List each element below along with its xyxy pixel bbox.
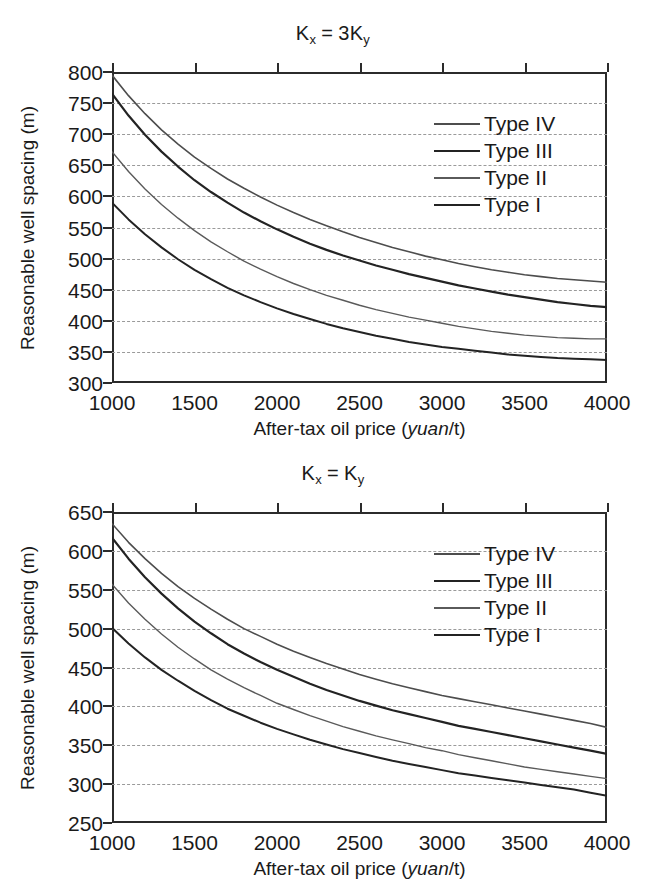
- y-axis-tick-mark: [103, 227, 112, 229]
- y-axis-label-bottom-text: Reasonable well spacing (m): [17, 546, 39, 790]
- y-axis-tick-mark: [103, 351, 112, 353]
- panel-title-bottom-equals: =: [322, 462, 344, 484]
- legend-item-label: Type II: [484, 167, 547, 188]
- x-axis-tick-mark: [195, 63, 197, 72]
- x-axis-tick-label: 3500: [501, 832, 548, 853]
- y-axis-tick-mark: [103, 822, 112, 824]
- legend-item[interactable]: Type I: [434, 621, 555, 648]
- legend-item[interactable]: Type III: [434, 567, 555, 594]
- panel-title-top-equals: =: [316, 22, 338, 44]
- y-axis-tick-mark: [103, 589, 112, 591]
- x-axis-label-bottom-suffix: /t): [449, 858, 466, 879]
- y-axis-tick-mark: [103, 783, 112, 785]
- x-axis-tick-label: 1500: [171, 392, 218, 413]
- y-axis-tick-mark: [103, 628, 112, 630]
- y-axis-tick-label: 700: [68, 124, 103, 145]
- legend-item-label: Type III: [484, 140, 553, 161]
- legend-bottom: Type IVType IIIType IIType I: [434, 540, 555, 648]
- x-axis-tick-mark: [360, 503, 362, 512]
- x-axis-label-bottom-italic: yuan: [408, 858, 449, 879]
- x-axis-tick-label: 2000: [254, 832, 301, 853]
- panel-title-top-k: K: [296, 22, 310, 44]
- x-axis-tick-mark: [360, 63, 362, 72]
- y-axis-tick-label: 400: [68, 696, 103, 717]
- x-axis-tick-label: 2000: [254, 392, 301, 413]
- y-axis-label-bottom: Reasonable well spacing (m): [14, 512, 42, 823]
- x-axis-tick-label: 1000: [89, 832, 136, 853]
- x-axis-tick-mark: [277, 503, 279, 512]
- x-axis-tick-mark: [607, 63, 609, 72]
- x-axis-label-bottom-prefix: After-tax oil price (: [253, 858, 407, 879]
- plot-area-bottom: 2503003504004505005506006501000150020002…: [112, 512, 607, 823]
- panel-title-top-3k: 3K: [338, 22, 363, 44]
- y-axis-tick-label: 800: [68, 62, 103, 83]
- x-axis-tick-label: 2500: [336, 832, 383, 853]
- legend-item-label: Type II: [484, 597, 547, 618]
- panel-title-top: Kx=3Ky: [0, 22, 666, 45]
- legend-item[interactable]: Type IV: [434, 110, 555, 137]
- x-axis-label-top-prefix: After-tax oil price (: [253, 418, 407, 439]
- x-axis-tick-mark: [112, 503, 114, 512]
- x-axis-tick-mark: [607, 503, 609, 512]
- x-axis-tick-mark: [112, 63, 114, 72]
- y-axis-tick-mark: [103, 744, 112, 746]
- plot-area-top: 3003504004505005506006507007508001000150…: [112, 72, 607, 383]
- legend-item-label: Type I: [484, 624, 541, 645]
- y-axis-tick-label: 550: [68, 579, 103, 600]
- y-axis-tick-label: 550: [68, 217, 103, 238]
- y-axis-tick-mark: [103, 705, 112, 707]
- x-axis-tick-label: 3000: [419, 392, 466, 413]
- x-axis-tick-mark: [195, 503, 197, 512]
- y-axis-tick-label: 450: [68, 279, 103, 300]
- panel-title-bottom-k2: K: [344, 462, 358, 484]
- y-axis-tick-label: 750: [68, 93, 103, 114]
- legend-swatch-line: [434, 553, 480, 555]
- y-axis-tick-label: 500: [68, 248, 103, 269]
- panel-title-bottom: Kx=Ky: [0, 462, 666, 485]
- y-axis-tick-mark: [103, 550, 112, 552]
- y-axis-tick-mark: [103, 667, 112, 669]
- x-axis-tick-label: 3000: [419, 832, 466, 853]
- y-axis-tick-mark: [103, 195, 112, 197]
- x-axis-tick-label: 4000: [584, 392, 631, 413]
- legend-swatch-line: [434, 607, 480, 609]
- y-axis-tick-label: 350: [68, 341, 103, 362]
- x-axis-label-top: After-tax oil price (yuan/t): [112, 418, 607, 440]
- panel-title-top-sub-x: x: [309, 32, 316, 47]
- x-axis-tick-label: 4000: [584, 832, 631, 853]
- x-axis-tick-mark: [525, 63, 527, 72]
- y-axis-tick-mark: [103, 511, 112, 513]
- y-axis-tick-mark: [103, 71, 112, 73]
- panel-title-bottom-sub-y: y: [358, 472, 365, 487]
- y-axis-tick-mark: [103, 258, 112, 260]
- figure-root: Kx=3Ky Reasonable well spacing (m) 30035…: [0, 0, 666, 880]
- legend-swatch-line: [434, 204, 480, 206]
- y-axis-tick-label: 650: [68, 502, 103, 523]
- y-axis-tick-mark: [103, 102, 112, 104]
- y-axis-tick-label: 650: [68, 155, 103, 176]
- legend-top: Type IVType IIIType IIType I: [434, 110, 555, 218]
- legend-swatch-line: [434, 150, 480, 152]
- legend-item-label: Type III: [484, 570, 553, 591]
- y-axis-tick-mark: [103, 320, 112, 322]
- panel-title-top-sub-y: y: [363, 32, 370, 47]
- x-axis-tick-mark: [525, 503, 527, 512]
- legend-swatch-line: [434, 634, 480, 636]
- legend-item[interactable]: Type I: [434, 191, 555, 218]
- legend-item[interactable]: Type II: [434, 164, 555, 191]
- x-axis-label-bottom: After-tax oil price (yuan/t): [112, 858, 607, 880]
- y-axis-tick-label: 400: [68, 310, 103, 331]
- legend-item[interactable]: Type IV: [434, 540, 555, 567]
- y-axis-label-top: Reasonable well spacing (m): [14, 72, 42, 383]
- y-axis-tick-label: 350: [68, 735, 103, 756]
- y-axis-tick-label: 600: [68, 186, 103, 207]
- y-axis-tick-mark: [103, 164, 112, 166]
- y-axis-tick-mark: [103, 382, 112, 384]
- x-axis-label-top-suffix: /t): [449, 418, 466, 439]
- legend-item[interactable]: Type III: [434, 137, 555, 164]
- y-axis-tick-label: 450: [68, 657, 103, 678]
- panel-title-bottom-k: K: [302, 462, 316, 484]
- legend-item[interactable]: Type II: [434, 594, 555, 621]
- x-axis-tick-label: 3500: [501, 392, 548, 413]
- x-axis-tick-mark: [442, 63, 444, 72]
